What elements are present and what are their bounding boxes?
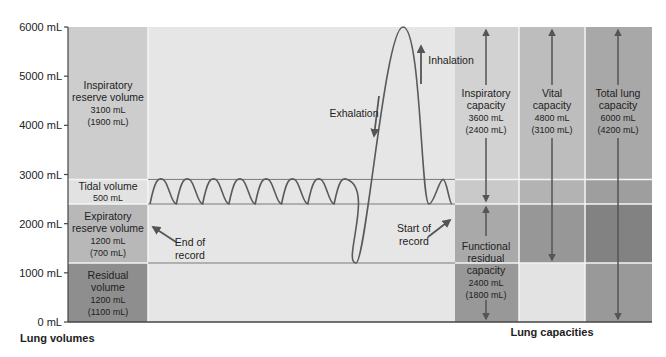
graph-background [148,27,455,322]
capacity-name: residual [468,252,505,264]
y-tick-label: 6000 mL [19,21,62,33]
lung-volume-value: (1900 mL) [87,117,128,127]
lung-volume-name: Tidal volume [78,180,137,192]
capacity-value: (3100 mL) [531,125,572,135]
capacity-value: (2400 mL) [465,125,506,135]
lung-volume-value: 500 mL [93,193,123,203]
lung-capacities-section-label: Lung capacities [510,326,593,338]
start-of-record-label: record [399,235,429,247]
y-tick-label: 5000 mL [19,70,62,82]
capacity-name: capacity [533,99,572,111]
background-layer [68,27,652,322]
capacity-column-2-band-rv [519,263,585,322]
lung-volumes-section-label: Lung volumes [20,332,95,344]
capacity-value: 2400 mL [468,278,503,288]
capacity-column-1-band-tidal [455,179,519,204]
capacity-name: Inspiratory [461,87,511,99]
capacity-value: (1800 mL) [465,290,506,300]
y-tick-label: 1000 mL [19,267,62,279]
lung-volume-name: volume [91,281,125,293]
lung-volume-value: (700 mL) [90,248,126,258]
lung-volume-name: Inspiratory [83,79,133,91]
capacity-value: (4200 mL) [597,125,638,135]
inhalation-label: Inhalation [428,54,474,66]
end-of-record-label: End of [175,236,205,248]
capacity-name: capacity [599,99,638,111]
lung-volume-value: 1200 mL [90,236,125,246]
capacity-name: capacity [467,264,506,276]
lung-volume-value: (1100 mL) [88,307,128,317]
start-of-record-label: Start of [397,222,431,234]
y-tick-label: 0 mL [38,316,62,328]
lung-volume-name: Expiratory [84,210,132,222]
capacity-value: 4800 mL [534,113,569,123]
y-tick-label: 4000 mL [19,119,62,131]
lung-volume-value: 3100 mL [90,105,125,115]
lung-volume-value: 1200 mL [90,295,125,305]
capacity-name: Vital [542,87,562,99]
lung-volume-name: Residual [88,269,129,281]
lung-volumes-diagram: 0 mL1000 mL2000 mL3000 mL4000 mL5000 mL6… [0,0,666,357]
capacity-value: 6000 mL [600,113,635,123]
exhalation-label: Exhalation [329,107,378,119]
y-tick-label: 2000 mL [19,218,62,230]
lung-volume-name: reserve volume [72,222,144,234]
capacity-name: Total lung [596,87,641,99]
capacity-name: capacity [467,99,506,111]
capacity-name: Functional [462,240,510,252]
lung-volume-name: reserve volume [72,91,144,103]
end-of-record-label: record [175,249,205,261]
capacity-value: 3600 mL [468,113,503,123]
y-tick-label: 3000 mL [19,169,62,181]
